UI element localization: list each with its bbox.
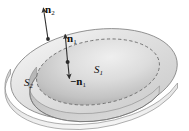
- label-n1-subscript: 1: [73, 38, 77, 46]
- label-s1-symbol: S: [94, 63, 100, 75]
- label-s2-subscript: 2: [30, 82, 34, 90]
- label-s1-subscript: 1: [100, 69, 104, 77]
- label-s1: S1: [94, 64, 103, 75]
- surface-normals-figure: n2 n1 −n1 S1 S2: [0, 0, 189, 131]
- label-minus-n1-symbol: −n: [70, 75, 82, 87]
- label-minus-n1: −n1: [70, 76, 86, 87]
- label-n2-subscript: 2: [51, 9, 55, 17]
- label-n1: n1: [67, 33, 77, 44]
- label-minus-n1-subscript: 1: [82, 81, 86, 89]
- label-s2: S2: [24, 77, 33, 88]
- label-n2: n2: [45, 4, 55, 15]
- n2-foot-point: [46, 37, 50, 41]
- label-s2-symbol: S: [24, 76, 30, 88]
